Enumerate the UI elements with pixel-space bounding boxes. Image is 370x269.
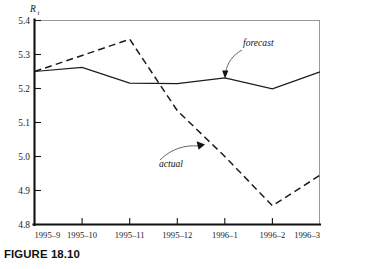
y-tick-label-5-4: 5.4 [18,16,30,26]
annotation-arrowhead-forecast [222,71,228,79]
figure-container: R t 5.4 5.3 5.2 5.1 5.0 4.9 4.8 [0,0,370,269]
line-chart: R t 5.4 5.3 5.2 5.1 5.0 4.9 4.8 [0,0,370,269]
y-tick-label-5-0: 5.0 [18,152,30,162]
series-line-forecast [35,67,321,88]
series-line-actual [35,39,321,206]
x-tick-label-1995-10: 1995–10 [67,230,97,240]
y-tick-label-5-2: 5.2 [18,84,30,94]
annotation-arrowhead-actual [197,141,205,150]
x-tick-label-1996-3: 1996–3 [294,230,320,240]
annotation-label-actual: actual [159,158,183,169]
x-tick-label-1995-12: 1995–12 [162,230,192,240]
x-tick-label-1996-2: 1996–2 [260,230,286,240]
x-tick-label-1995-11: 1995–11 [115,230,145,240]
y-axis-title-subscript: t [38,9,41,16]
y-tick-label-5-3: 5.3 [18,50,30,60]
annotation-label-forecast: forecast [243,37,274,48]
y-axis-title: R [29,4,36,14]
figure-caption: FIGURE 18.10 [4,248,80,260]
y-tick-label-5-1: 5.1 [18,118,30,128]
x-tick-label-1996-1: 1996–1 [212,230,238,240]
annotation-leader-forecast [226,50,242,72]
y-tick-label-4-9: 4.9 [18,186,30,196]
y-tick-label-4-8: 4.8 [18,220,30,230]
x-tick-label-1995-9: 1995–9 [35,230,61,240]
